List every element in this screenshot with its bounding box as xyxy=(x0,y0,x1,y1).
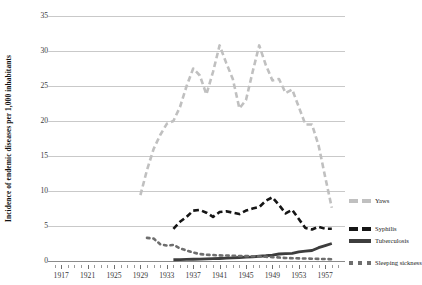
series-line-yaws xyxy=(140,45,331,207)
x-tick-mark xyxy=(55,265,56,268)
x-tick-mark xyxy=(299,265,300,269)
x-tick-mark xyxy=(259,265,260,268)
x-tick-mark xyxy=(160,265,161,268)
x-tick-mark xyxy=(187,265,188,268)
x-tick-label: 1921 xyxy=(80,271,95,280)
x-tick-mark xyxy=(88,265,89,269)
y-tick-label: 30 xyxy=(30,47,48,55)
series-line-sleeping-sickness xyxy=(147,238,332,259)
x-tick-mark xyxy=(61,265,62,269)
x-tick-mark xyxy=(292,265,293,268)
y-tick-label: 10 xyxy=(30,187,48,195)
x-tick-label: 1957 xyxy=(318,271,333,280)
x-tick-mark xyxy=(272,265,273,269)
x-tick-label: 1929 xyxy=(133,271,148,280)
series-line-syphilis xyxy=(173,197,331,229)
x-tick-mark xyxy=(286,265,287,268)
x-tick-mark xyxy=(253,265,254,268)
x-tick-mark xyxy=(101,265,102,268)
x-tick-mark xyxy=(94,265,95,268)
x-tick-mark xyxy=(279,265,280,268)
x-tick-label: 1933 xyxy=(159,271,174,280)
legend-item-syphilis[interactable]: Syphilis xyxy=(349,224,412,234)
x-tick-label: 1941 xyxy=(212,271,227,280)
legend-swatch xyxy=(349,261,371,265)
legend-swatch xyxy=(349,239,371,243)
x-tick-mark xyxy=(140,265,141,269)
plot-area xyxy=(48,16,345,261)
y-tick-label: 15 xyxy=(30,152,48,160)
x-tick-label: 1937 xyxy=(186,271,201,280)
x-tick-mark xyxy=(134,265,135,268)
x-tick-label: 1953 xyxy=(291,271,306,280)
x-tick-mark xyxy=(312,265,313,268)
y-tick-label: 25 xyxy=(30,82,48,90)
y-tick-label: 20 xyxy=(30,117,48,125)
legend-item-tuberculosis[interactable]: Tuberculosis xyxy=(349,236,412,246)
y-axis-ticks: 05101520253035 xyxy=(14,0,48,285)
legend-item-sleeping-sickness[interactable]: Sleeping sickness xyxy=(349,258,412,268)
y-tick-label: 35 xyxy=(30,12,48,20)
x-tick-mark xyxy=(266,265,267,268)
legend-label: Sleeping sickness xyxy=(375,258,422,268)
x-tick-label: 1949 xyxy=(265,271,280,280)
x-tick-mark xyxy=(226,265,227,268)
chart-legend: YawsSyphilisTuberculosisSleeping sicknes… xyxy=(349,196,412,268)
x-tick-mark xyxy=(107,265,108,268)
x-tick-mark xyxy=(319,265,320,268)
x-tick-label: 1945 xyxy=(238,271,253,280)
x-tick-mark xyxy=(325,265,326,269)
x-tick-mark xyxy=(180,265,181,268)
x-tick-mark xyxy=(167,265,168,269)
x-tick-mark xyxy=(233,265,234,268)
x-tick-mark xyxy=(81,265,82,268)
y-tick-label: 0 xyxy=(30,257,48,265)
x-tick-mark xyxy=(74,265,75,268)
gridline xyxy=(48,261,345,262)
x-tick-mark xyxy=(154,265,155,268)
legend-item-yaws[interactable]: Yaws xyxy=(349,196,412,206)
x-tick-mark xyxy=(193,265,194,269)
series-layer xyxy=(48,16,345,261)
x-tick-mark xyxy=(121,265,122,268)
y-tick-label: 5 xyxy=(30,222,48,230)
legend-swatch xyxy=(349,227,371,231)
x-axis-ticks: 1917192119251929193319371941194519491953… xyxy=(48,265,345,279)
legend-swatch xyxy=(349,199,371,203)
x-tick-mark xyxy=(220,265,221,269)
x-tick-mark xyxy=(68,265,69,268)
x-tick-mark xyxy=(147,265,148,268)
x-tick-mark xyxy=(239,265,240,268)
x-tick-label: 1917 xyxy=(54,271,69,280)
legend-label: Tuberculosis xyxy=(375,236,409,246)
x-tick-label: 1925 xyxy=(106,271,121,280)
x-tick-mark xyxy=(200,265,201,268)
x-tick-mark xyxy=(246,265,247,269)
x-tick-mark xyxy=(127,265,128,268)
legend-label: Yaws xyxy=(375,196,389,206)
x-tick-mark xyxy=(173,265,174,268)
legend-label: Syphilis xyxy=(375,224,397,234)
x-tick-mark xyxy=(332,265,333,268)
x-tick-mark xyxy=(338,265,339,268)
x-tick-mark xyxy=(305,265,306,268)
x-tick-mark xyxy=(213,265,214,268)
x-tick-mark xyxy=(206,265,207,268)
x-tick-mark xyxy=(114,265,115,269)
